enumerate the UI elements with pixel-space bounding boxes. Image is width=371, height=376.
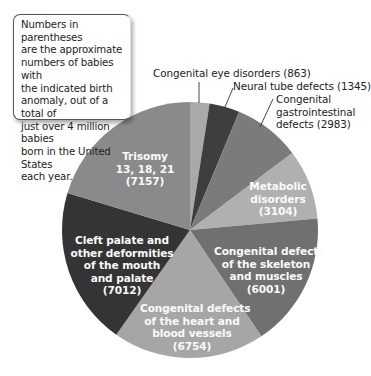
leader-line-gi: [260, 99, 273, 127]
label-cleft-palate: Cleft palate and other deformities of th…: [70, 234, 174, 297]
label-line: defects (2983): [276, 118, 355, 131]
label-line: of the mouth: [70, 259, 174, 272]
label-line: Congenital defects: [214, 245, 318, 258]
label-metabolic: Metabolic disorders (3104): [248, 180, 308, 218]
label-line: of the skeleton: [214, 258, 318, 271]
label-line: (3104): [248, 205, 308, 218]
label-line: Congenital defects: [140, 302, 244, 315]
label-line: and muscles: [214, 270, 318, 283]
label-line: Metabolic: [248, 180, 308, 193]
label-gastrointestinal: Congenital gastrointestinal defects (298…: [276, 93, 355, 131]
note-line: the indicated birth: [21, 83, 130, 96]
label-line: (6001): [214, 283, 318, 296]
label-line: Congenital: [276, 93, 355, 106]
label-line: of the heart and: [140, 315, 244, 328]
label-line: blood vessels: [140, 327, 244, 340]
label-line: (7157): [105, 175, 185, 188]
note-line: are the approximate: [21, 44, 130, 57]
label-line: (7012): [70, 284, 174, 297]
label-skeleton: Congenital defects of the skeleton and m…: [214, 245, 318, 295]
note-line: numbers of babies with: [21, 57, 130, 82]
label-line: gastrointestinal: [276, 106, 355, 119]
note-line: anomaly, out of a total of: [21, 95, 130, 120]
note-callout: Numbers in parentheses are the approxima…: [13, 14, 131, 120]
label-line: 13, 18, 21: [105, 163, 185, 176]
label-eye-disorders: Congenital eye disorders (863): [153, 67, 311, 80]
label-line: and palate: [70, 272, 174, 285]
label-neural-tube: Neural tube defects (1345): [233, 80, 371, 93]
label-line: Cleft palate and: [70, 234, 174, 247]
label-line: (6754): [140, 340, 244, 353]
label-line: other deformities: [70, 247, 174, 260]
label-line: Trisomy: [105, 150, 185, 163]
note-line: Numbers in parentheses: [21, 19, 130, 44]
label-heart: Congenital defects of the heart and bloo…: [140, 302, 244, 352]
note-line: just over 4 million babies: [21, 121, 130, 146]
label-trisomy: Trisomy 13, 18, 21 (7157): [105, 150, 185, 188]
label-line: disorders: [248, 193, 308, 206]
leader-line-neural: [225, 88, 233, 107]
